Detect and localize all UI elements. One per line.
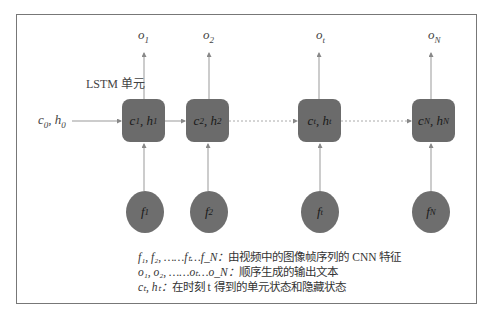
feature-node-1: f1 bbox=[126, 191, 164, 233]
lstm-cell-n: cN, hN bbox=[412, 99, 455, 142]
output-label-n: oN bbox=[428, 27, 441, 45]
lstm-cell-1: c1, h1 bbox=[122, 99, 165, 142]
output-label-1: o1 bbox=[138, 27, 149, 45]
legend: f₁, f₂, ……fₜ…f_N：由视频中的图像帧序列的 CNN 特征 o₁, … bbox=[138, 250, 401, 295]
lstm-unit-label: LSTM 单元 bbox=[86, 74, 145, 92]
feature-node-t: ft bbox=[301, 191, 339, 233]
initial-state-label: c0, h0 bbox=[38, 112, 66, 130]
legend-item-features: f₁, f₂, ……fₜ…f_N：由视频中的图像帧序列的 CNN 特征 bbox=[138, 250, 401, 265]
legend-item-states: cₜ, hₜ：在时刻 t 得到的单元状态和隐藏状态 bbox=[138, 280, 401, 295]
output-label-t: ot bbox=[316, 27, 325, 45]
feature-node-2: f2 bbox=[190, 191, 228, 233]
feature-node-n: fN bbox=[412, 191, 450, 233]
output-label-2: o2 bbox=[203, 27, 214, 45]
legend-item-outputs: o₁, o₂, ……oₜ…o_N：顺序生成的输出文本 bbox=[138, 265, 401, 280]
lstm-cell-2: c2, h2 bbox=[186, 99, 229, 142]
lstm-cell-t: ct, ht bbox=[298, 99, 341, 142]
